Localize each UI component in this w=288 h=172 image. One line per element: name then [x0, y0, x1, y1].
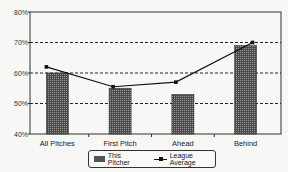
league-average-line [46, 43, 252, 87]
bar-this-pitcher [46, 73, 68, 134]
y-tick-label: 60% [14, 70, 28, 77]
bar-this-pitcher [235, 46, 257, 134]
x-category-label: Ahead [172, 139, 194, 148]
league-average-marker [251, 41, 255, 45]
league-average-marker [111, 85, 115, 89]
bar-this-pitcher [172, 94, 194, 134]
legend-item-this-pitcher: This Pitcher [94, 152, 141, 166]
league-average-marker [45, 65, 49, 69]
x-category-label: All Pitches [40, 139, 75, 148]
league-average-marker [174, 80, 178, 84]
bar-swatch-icon [94, 156, 105, 162]
chart-canvas: 40%50%60%70%80%All PitchesFirst PitchAhe… [0, 0, 288, 150]
x-category-label: Behind [234, 139, 257, 148]
line-marker-icon [154, 159, 166, 160]
legend-label-this-pitcher: This Pitcher [108, 152, 141, 166]
x-category-label: First Pitch [103, 139, 136, 148]
bar-this-pitcher [109, 88, 131, 134]
chart-legend: This Pitcher League Average [88, 150, 216, 168]
y-tick-label: 80% [14, 9, 28, 16]
legend-item-league-average: League Average [146, 152, 215, 166]
legend-label-league-average: League Average [170, 152, 215, 166]
y-tick-label: 40% [14, 131, 28, 138]
y-tick-label: 50% [14, 100, 28, 107]
y-tick-label: 70% [14, 39, 28, 46]
